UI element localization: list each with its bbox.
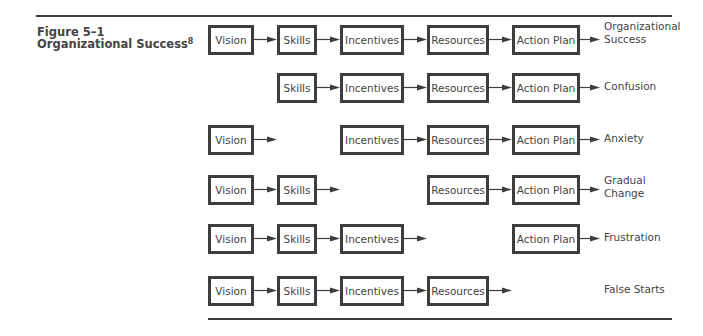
arrow-icon xyxy=(489,36,512,43)
outcome-line: Anxiety xyxy=(604,132,644,145)
arrow-icon xyxy=(317,235,340,242)
element-box: Incentives xyxy=(340,224,404,254)
element-box: Action Plan xyxy=(512,73,580,103)
element-box: Vision xyxy=(208,175,254,205)
arrow-icon xyxy=(317,84,340,91)
element-box: Skills xyxy=(277,224,317,254)
element-box: Incentives xyxy=(340,125,404,155)
outcome-label: GradualChange xyxy=(604,174,646,200)
figure-title: Organizational Success8 xyxy=(37,38,193,50)
arrow-icon xyxy=(317,186,340,193)
element-box: Action Plan xyxy=(512,175,580,205)
arrow-icon xyxy=(580,36,600,43)
element-box: Incentives xyxy=(340,276,404,306)
element-box: Resources xyxy=(427,125,489,155)
outcome-label: False Starts xyxy=(604,283,665,296)
arrow-icon xyxy=(404,84,427,91)
outcome-label: OrganizationalSuccess xyxy=(604,20,680,46)
arrow-icon xyxy=(254,287,277,294)
figure-caption: Figure 5–1 Organizational Success8 xyxy=(37,26,193,50)
element-box: Skills xyxy=(277,25,317,55)
element-box: Resources xyxy=(427,25,489,55)
arrow-icon xyxy=(254,186,277,193)
arrow-icon xyxy=(489,287,512,294)
arrow-icon xyxy=(580,136,600,143)
footnote-marker: 8 xyxy=(188,37,194,46)
element-box: Vision xyxy=(208,25,254,55)
arrow-icon xyxy=(317,36,340,43)
element-box: Action Plan xyxy=(512,25,580,55)
element-box: Vision xyxy=(208,125,254,155)
outcome-line: Change xyxy=(604,187,646,200)
element-box: Resources xyxy=(427,276,489,306)
arrow-icon xyxy=(404,235,427,242)
outcome-line: Organizational xyxy=(604,20,680,33)
outcome-label: Anxiety xyxy=(604,132,644,145)
element-box: Incentives xyxy=(340,73,404,103)
outcome-label: Confusion xyxy=(604,80,656,93)
arrow-icon xyxy=(580,186,600,193)
top-rule xyxy=(36,15,672,17)
element-box: Skills xyxy=(277,73,317,103)
arrow-icon xyxy=(489,186,512,193)
element-box: Resources xyxy=(427,175,489,205)
element-box: Action Plan xyxy=(512,224,580,254)
arrow-icon xyxy=(489,84,512,91)
element-box: Incentives xyxy=(340,25,404,55)
arrow-icon xyxy=(404,287,427,294)
arrow-icon xyxy=(404,136,427,143)
outcome-label: Frustration xyxy=(604,231,661,244)
element-box: Action Plan xyxy=(512,125,580,155)
arrow-icon xyxy=(254,136,277,143)
element-box: Vision xyxy=(208,224,254,254)
outcome-line: Frustration xyxy=(604,231,661,244)
outcome-line: Confusion xyxy=(604,80,656,93)
outcome-line: Success xyxy=(604,33,680,46)
bottom-rule xyxy=(208,318,672,320)
arrow-icon xyxy=(317,287,340,294)
arrow-icon xyxy=(254,36,277,43)
arrow-icon xyxy=(580,84,600,91)
element-box: Resources xyxy=(427,73,489,103)
outcome-line: Gradual xyxy=(604,174,646,187)
arrow-icon xyxy=(254,235,277,242)
outcome-line: False Starts xyxy=(604,283,665,296)
element-box: Vision xyxy=(208,276,254,306)
arrow-icon xyxy=(580,235,600,242)
element-box: Skills xyxy=(277,175,317,205)
element-box: Skills xyxy=(277,276,317,306)
arrow-icon xyxy=(404,36,427,43)
arrow-icon xyxy=(489,136,512,143)
